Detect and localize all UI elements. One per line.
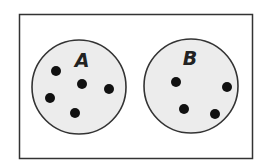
element-dot: [104, 84, 114, 94]
set-a: A: [32, 40, 126, 134]
set-b: B: [144, 39, 238, 133]
set-label: B: [183, 47, 197, 69]
element-dot: [171, 77, 181, 87]
element-dot: [210, 109, 220, 119]
element-dot: [222, 82, 232, 92]
element-dot: [77, 79, 87, 89]
element-dot: [179, 104, 189, 114]
element-dot: [45, 93, 55, 103]
venn-diagram: AB: [0, 0, 256, 161]
element-dot: [51, 66, 61, 76]
element-dot: [70, 108, 80, 118]
set-label: A: [73, 49, 90, 71]
